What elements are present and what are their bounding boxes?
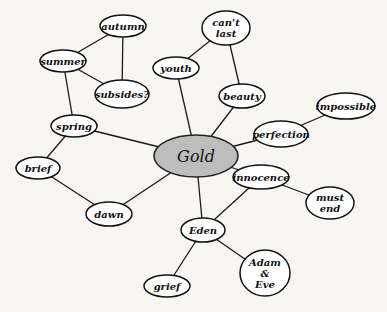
mind-map-diagram: autumnsummersubsides?youthcan'tlastbeaut… (0, 0, 387, 312)
node-label: innocence (232, 172, 289, 183)
node-adam-eve: Adam&Eve (240, 250, 290, 296)
node-must-end: mustend (306, 187, 354, 219)
node-summer: summer (40, 50, 87, 72)
node-label: & (260, 268, 269, 279)
node-gold: Gold (154, 135, 238, 177)
node-label: last (216, 28, 237, 39)
node-label: Eve (254, 279, 275, 290)
node-label: spring (56, 121, 92, 132)
node-label: brief (25, 163, 53, 174)
node-label: grief (154, 281, 182, 292)
node-cant-last: can'tlast (202, 11, 250, 45)
node-grief: grief (144, 275, 190, 297)
node-label: subsides? (95, 89, 149, 100)
node-label: youth (159, 63, 192, 74)
node-subsides: subsides? (95, 80, 149, 108)
node-perfection: perfection (252, 121, 310, 147)
node-label: must (316, 192, 344, 203)
node-label: Eden (188, 225, 217, 236)
node-youth: youth (153, 57, 199, 79)
node-label: perfection (252, 129, 310, 140)
node-eden: Eden (181, 218, 225, 242)
node-beauty: beauty (219, 84, 265, 108)
node-label: can't (212, 17, 240, 28)
node-label: end (320, 203, 341, 214)
node-label: beauty (223, 91, 262, 102)
node-label: Adam (248, 257, 281, 268)
node-dawn: dawn (86, 202, 132, 226)
node-label: impossible (316, 101, 376, 112)
node-label: summer (40, 56, 86, 67)
node-brief: brief (16, 157, 60, 179)
node-layer: autumnsummersubsides?youthcan'tlastbeaut… (16, 11, 376, 297)
node-label: dawn (94, 209, 123, 220)
node-spring: spring (51, 115, 97, 137)
node-autumn: autumn (100, 15, 146, 37)
node-innocence: innocence (232, 165, 289, 189)
node-impossible: impossible (316, 93, 376, 119)
node-label: Gold (177, 147, 215, 166)
node-label: autumn (101, 21, 145, 32)
